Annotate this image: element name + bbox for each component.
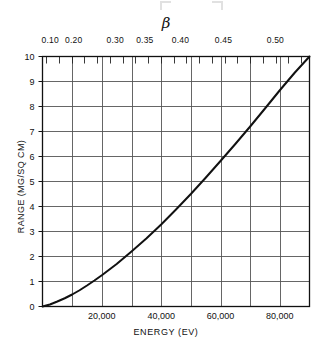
- grid-lines: [43, 57, 310, 307]
- figure-range-vs-energy: β 0.100.200.300.350.400.450.50 012345678…: [0, 0, 332, 357]
- x-axis-tick-label: 60,000: [207, 312, 235, 321]
- top-axis-tick-label: 0.50: [267, 36, 284, 45]
- x-axis-tick-label: 80,000: [266, 312, 294, 321]
- y-axis-tick-label: 0: [13, 302, 35, 311]
- y-axis-tick-label: 1: [13, 277, 35, 286]
- top-axis-tick-label: 0.35: [136, 36, 153, 45]
- top-axis-tick-label: 0.30: [107, 36, 124, 45]
- x-axis-title: ENERGY (EV): [0, 328, 332, 337]
- y-axis-tick-label: 9: [13, 77, 35, 86]
- y-axis-tick-label: 8: [13, 102, 35, 111]
- top-axis-tick-label: 0.20: [65, 36, 82, 45]
- top-axis-tick-label: 0.45: [215, 36, 232, 45]
- top-axis-tick-label: 0.40: [172, 36, 189, 45]
- crop-bracket-artifact-right: [212, 1, 223, 10]
- crop-bracket-artifact-left: [160, 1, 171, 10]
- plot-canvas: [0, 0, 332, 357]
- x-axis-tick-label: 40,000: [147, 312, 175, 321]
- top-axis-tick-marks: [47, 57, 302, 64]
- top-axis-tick-label: 0.10: [42, 36, 59, 45]
- y-axis-title: RANGE (MG/SQ CM): [17, 112, 26, 262]
- y-axis-tick-label: 10: [13, 52, 35, 61]
- top-axis-title: β: [0, 16, 332, 31]
- x-axis-tick-label: 20,000: [88, 312, 116, 321]
